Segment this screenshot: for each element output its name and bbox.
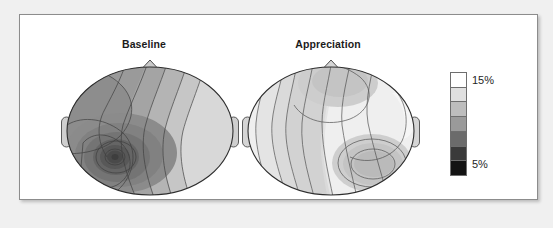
colorbar-segment-6 <box>451 147 466 162</box>
colorbar-label-max: 15% <box>472 74 494 86</box>
colorbar-segment-3 <box>451 102 466 117</box>
map-title-appreciation: Appreciation <box>273 38 383 50</box>
topomap-appreciation <box>242 53 420 199</box>
colorbar-segment-5 <box>451 132 466 147</box>
scalp-field-baseline <box>61 53 233 199</box>
colorbar-segment-1 <box>451 73 466 88</box>
colorbar-segment-7 <box>451 161 466 175</box>
figure-panel: Baseline Appreciation <box>19 14 538 200</box>
topomap-baseline <box>61 53 239 199</box>
colorbar-label-min: 5% <box>472 158 488 170</box>
colorbar-segment-4 <box>451 117 466 132</box>
colorbar-segment-2 <box>451 88 466 103</box>
map-title-baseline: Baseline <box>104 38 184 50</box>
scalp-field-appreciation <box>248 53 418 199</box>
grayscale-colorbar <box>450 72 467 176</box>
